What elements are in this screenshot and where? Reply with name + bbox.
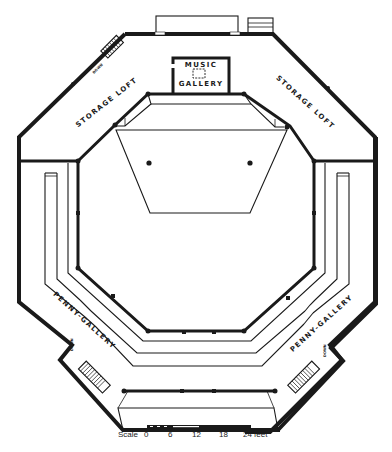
penny-gallery-left-label: PENNY-GALLERY	[51, 290, 117, 351]
theater-floor-plan: MUSIC GALLERY	[0, 0, 392, 452]
scale-tick-6: 6	[168, 430, 173, 439]
top-annex	[156, 16, 273, 33]
outer-wall	[17, 32, 378, 432]
scale-tick-12: 12	[192, 430, 201, 439]
bottom-entrance	[118, 389, 278, 431]
stage-pillar-left	[146, 160, 151, 165]
stage	[116, 130, 287, 213]
stair-label-bottom-left: DOWN	[70, 338, 74, 351]
music-label: MUSIC	[185, 61, 217, 69]
stage-pillar-right	[247, 160, 252, 165]
gallery-label: GALLERY	[179, 80, 224, 88]
penny-gallery-right-label: PENNY-GALLERY	[289, 293, 355, 354]
music-gallery: MUSIC GALLERY	[173, 58, 229, 94]
scale-tick-0: 0	[144, 430, 149, 439]
stair-label-bottom-right: DOWN	[323, 344, 327, 357]
storage-loft-left-label: STORAGE LOFT	[74, 76, 139, 129]
scale-tick-24: 24 feet	[243, 430, 268, 439]
scale-label: Scale	[118, 430, 139, 439]
scale-tick-18: 18	[219, 430, 228, 439]
